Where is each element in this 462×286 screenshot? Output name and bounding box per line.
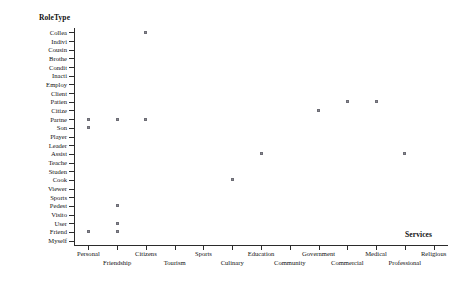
y-axis-label-sports: Sports	[3, 194, 67, 201]
y-axis-label-text: Sports	[5, 194, 67, 201]
y-axis-label-son: Son	[3, 124, 67, 131]
y-axis-label-indivi: Indivi	[3, 38, 67, 45]
y-axis-label-myself: Myself	[3, 237, 67, 244]
y-axis-label-partne: Partne	[3, 116, 67, 123]
y-axis-label-text: Inacti	[5, 72, 67, 79]
y-axis-label-condit: Condit	[3, 64, 67, 71]
data-point	[116, 230, 119, 233]
data-point	[144, 118, 147, 121]
x-axis-label-professional: Professional	[370, 259, 440, 267]
scatter-chart: RoleType Services ColleaIndiviCousinBrot…	[0, 0, 462, 286]
y-axis-label-user: User	[3, 220, 67, 227]
y-axis-label-text: Assist	[5, 150, 67, 157]
y-axis-label-friend: Friend	[3, 228, 67, 235]
y-axis-title: RoleType	[39, 13, 70, 22]
y-axis-label-cousin: Cousin	[3, 46, 67, 53]
y-axis-label-text: Studen	[5, 168, 67, 175]
data-point	[116, 118, 119, 121]
y-axis-label-text: Viewer	[5, 185, 67, 192]
y-axis-label-patien: Patien	[3, 98, 67, 105]
data-point	[403, 152, 406, 155]
x-axis-label-text: Religious	[399, 250, 462, 258]
y-axis-label-text: Cousin	[5, 46, 67, 53]
y-axis-label-collea: Collea	[3, 29, 67, 36]
y-axis-label-brothe: Brothe	[3, 55, 67, 62]
y-axis-label-text: Patien	[5, 98, 67, 105]
y-axis-label-text: Myself	[5, 237, 67, 244]
data-point	[375, 100, 378, 103]
y-axis-label-viewer: Viewer	[3, 185, 67, 192]
y-axis-label-player: Player	[3, 133, 67, 140]
data-point	[346, 100, 349, 103]
y-axis-label-teache: Teache	[3, 159, 67, 166]
y-axis-label-studen: Studen	[3, 168, 67, 175]
y-axis-label-leader: Leader	[3, 142, 67, 149]
y-axis-label-text: Condit	[5, 64, 67, 71]
y-axis-label-text: Partne	[5, 116, 67, 123]
plot-area	[74, 28, 448, 245]
y-axis-label-text: Son	[5, 124, 67, 131]
y-axis-label-pedest: Pedest	[3, 202, 67, 209]
data-point	[260, 152, 263, 155]
data-point	[87, 230, 90, 233]
data-point	[144, 31, 147, 34]
data-point	[116, 222, 119, 225]
y-axis-label-text: Brothe	[5, 55, 67, 62]
x-axis-label-text: Professional	[370, 259, 440, 267]
y-axis-label-text: Visito	[5, 211, 67, 218]
y-axis-label-employ: Employ	[3, 81, 67, 88]
y-axis-label-text: Pedest	[5, 202, 67, 209]
data-point	[87, 118, 90, 121]
y-axis-label-inacti: Inacti	[3, 72, 67, 79]
y-axis-label-visito: Visito	[3, 211, 67, 218]
y-axis-label-text: Indivi	[5, 38, 67, 45]
y-axis-label-client: Client	[3, 90, 67, 97]
data-point	[231, 178, 234, 181]
y-axis-label-text: Cook	[5, 176, 67, 183]
data-point	[116, 204, 119, 207]
y-axis-label-cook: Cook	[3, 176, 67, 183]
y-axis-label-text: Citize	[5, 107, 67, 114]
x-axis-label-religious: Religious	[399, 250, 462, 258]
y-axis-label-text: Friend	[5, 228, 67, 235]
y-axis-label-assist: Assist	[3, 150, 67, 157]
y-axis-label-text: Leader	[5, 142, 67, 149]
y-axis-label-text: Employ	[5, 81, 67, 88]
y-axis-label-text: Teache	[5, 159, 67, 166]
data-point	[317, 109, 320, 112]
data-point	[87, 126, 90, 129]
y-axis-label-text: Player	[5, 133, 67, 140]
y-axis-label-citize: Citize	[3, 107, 67, 114]
y-axis-label-text: User	[5, 220, 67, 227]
y-axis-label-text: Client	[5, 90, 67, 97]
y-axis-label-text: Collea	[5, 29, 67, 36]
